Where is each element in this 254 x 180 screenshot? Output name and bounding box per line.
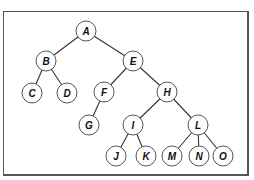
node-label: F: [101, 87, 108, 98]
tree-diagram: ABECDFHGILJKMNO: [0, 0, 254, 180]
tree-node-l: L: [188, 115, 208, 135]
node-label: M: [168, 151, 177, 162]
tree-node-i: I: [123, 115, 143, 135]
tree-node-h: H: [157, 82, 177, 102]
node-label: D: [63, 88, 70, 99]
node-label: L: [195, 120, 201, 131]
tree-node-a: A: [76, 21, 96, 41]
tree-node-k: K: [136, 146, 156, 166]
tree-node-n: N: [189, 146, 209, 166]
tree-node-g: G: [79, 115, 99, 135]
tree-node-b: B: [36, 51, 56, 71]
node-label: G: [85, 120, 93, 131]
tree-node-c: C: [22, 83, 42, 103]
node-label: O: [219, 151, 227, 162]
tree-node-o: O: [213, 146, 233, 166]
node-label: E: [130, 56, 137, 67]
node-label: C: [28, 88, 36, 99]
tree-node-m: M: [162, 146, 182, 166]
node-label: N: [195, 151, 203, 162]
tree-node-f: F: [94, 82, 114, 102]
node-label: B: [42, 56, 49, 67]
node-label: K: [142, 151, 150, 162]
tree-nodes: ABECDFHGILJKMNO: [22, 21, 233, 166]
node-label: J: [113, 151, 119, 162]
tree-node-d: D: [57, 83, 77, 103]
node-label: H: [163, 87, 171, 98]
node-label: A: [81, 26, 89, 37]
tree-node-j: J: [106, 146, 126, 166]
tree-node-e: E: [123, 51, 143, 71]
node-label: I: [132, 120, 135, 131]
